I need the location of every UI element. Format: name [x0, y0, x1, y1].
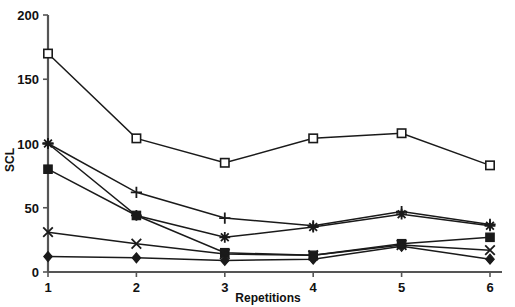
chart-container: 050100150200 123456 SCL Repetitions: [0, 0, 515, 307]
y-tick-label: 150: [17, 72, 39, 87]
marker-asterisk: [219, 232, 230, 243]
x-tick-label: 6: [486, 280, 493, 295]
y-axis-title: SCL: [3, 148, 17, 172]
x-tick-label: 1: [44, 280, 51, 295]
marker-asterisk: [43, 138, 54, 149]
marker-open-square: [44, 49, 52, 57]
x-axis-title: Repetitions: [235, 291, 301, 305]
marker-filled-square: [132, 211, 140, 219]
x-tick-label: 5: [398, 280, 405, 295]
scl-repetitions-line-chart: 050100150200 123456 SCL Repetitions: [0, 0, 515, 307]
y-tick-label: 0: [32, 265, 39, 280]
x-tick-label: 2: [133, 280, 140, 295]
marker-open-square: [486, 161, 494, 169]
marker-asterisk: [308, 222, 319, 233]
marker-open-square: [221, 159, 229, 167]
marker-open-square: [397, 129, 405, 137]
marker-open-square: [309, 134, 317, 142]
x-tick-label: 3: [221, 280, 228, 295]
marker-filled-square: [486, 233, 494, 241]
marker-asterisk: [396, 209, 407, 220]
marker-asterisk: [485, 220, 496, 231]
y-tick-label: 50: [25, 201, 39, 216]
x-tick-label: 4: [310, 280, 318, 295]
marker-filled-square: [44, 165, 52, 173]
y-tick-label: 200: [17, 8, 39, 23]
marker-open-square: [132, 134, 140, 142]
y-tick-label: 100: [17, 137, 39, 152]
